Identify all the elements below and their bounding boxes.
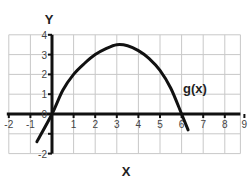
x-tick-label: 4 [136,119,142,130]
x-tick-label: 9 [242,119,248,130]
series-line-g-of-x [37,45,188,142]
x-tick-label: 1 [71,119,77,130]
y-tick-label: 0 [41,109,47,120]
x-tick-label: 7 [200,119,206,130]
x-axis-title: X [122,164,131,179]
x-tick-label: -1 [26,119,35,130]
x-tick-label: 5 [157,119,163,130]
x-tick-label: 3 [114,119,120,130]
y-axis-title: Y [45,12,54,27]
x-tick-label: 2 [92,119,98,130]
chart: -2-1123456789-201234 Y X g(x) [0,0,252,183]
x-tick-label: 8 [222,119,228,130]
series-label-g-of-x: g(x) [183,81,207,96]
y-tick-label: 2 [41,69,47,80]
y-tick-label: 3 [41,50,47,61]
x-tick-label: -2 [4,119,13,130]
y-tick-label: -2 [38,149,47,160]
y-tick-label: 4 [41,30,47,41]
y-tick-label: 1 [41,89,47,100]
